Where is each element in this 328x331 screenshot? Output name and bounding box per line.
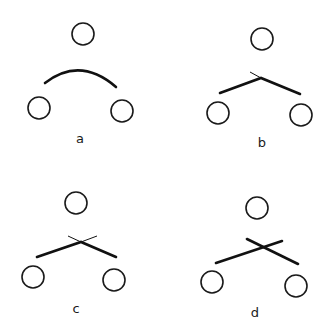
tick-line-b	[250, 72, 261, 78]
thin-extension-right-c	[81, 236, 97, 242]
left-node-d	[201, 271, 223, 293]
panel-b: b	[207, 28, 312, 150]
panel-label-b: b	[258, 135, 266, 150]
panel-c: c	[22, 192, 125, 316]
panel-a: a	[28, 23, 133, 146]
right-node-b	[290, 104, 312, 126]
panel-label-d: d	[251, 305, 259, 320]
top-node-c	[65, 192, 87, 214]
kinked-bond-c	[37, 242, 116, 257]
top-node-b	[251, 28, 273, 50]
panel-label-a: a	[76, 131, 84, 146]
crossing-line-2-d	[247, 239, 298, 264]
left-node-c	[22, 266, 44, 288]
panel-d: d	[201, 197, 307, 320]
kinked-bond-b	[220, 78, 300, 94]
left-node-a	[28, 97, 50, 119]
left-node-b	[207, 102, 229, 124]
right-node-d	[285, 275, 307, 297]
right-node-c	[103, 269, 125, 291]
arc-bond-a	[45, 70, 116, 87]
thin-extension-left-c	[68, 236, 81, 242]
diagram-figure: a b c d	[0, 0, 328, 331]
top-node-d	[246, 197, 268, 219]
right-node-a	[111, 100, 133, 122]
top-node-a	[72, 23, 94, 45]
panel-label-c: c	[72, 301, 79, 316]
